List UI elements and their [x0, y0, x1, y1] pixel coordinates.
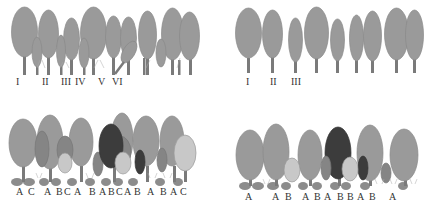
species-label: A [272, 192, 279, 202]
even-aged-stand-illustration [217, 0, 434, 106]
species-label: A [357, 192, 364, 202]
species-label: A [302, 192, 309, 202]
species-label: C [180, 187, 187, 197]
layer-label-iii: III [61, 77, 71, 87]
species-label: B [108, 187, 115, 197]
species-label: B [314, 192, 321, 202]
species-label: A [44, 187, 51, 197]
species-label: C [64, 187, 71, 197]
layer-label-ii: II [270, 77, 277, 87]
panel-uneven-aged-stand [0, 0, 217, 106]
species-label: B [285, 192, 292, 202]
species-label: A [124, 187, 131, 197]
species-label: C [28, 187, 35, 197]
species-label: B [369, 192, 376, 202]
species-label: B [89, 187, 96, 197]
species-label: A [324, 192, 331, 202]
species-label: A [147, 187, 154, 197]
species-label: A [16, 187, 23, 197]
species-label: A [389, 192, 396, 202]
species-label: A [74, 187, 81, 197]
species-label: B [134, 187, 141, 197]
layer-label-vi: VI [112, 77, 123, 87]
layer-label-i: I [16, 77, 19, 87]
panel-even-aged-stand [217, 0, 434, 106]
species-label: A [170, 187, 177, 197]
layer-label-iv: IV [75, 77, 86, 87]
species-label: C [116, 187, 123, 197]
species-label: A [245, 192, 252, 202]
species-label: B [337, 192, 344, 202]
species-label: B [56, 187, 63, 197]
layer-label-v: V [98, 77, 105, 87]
uneven-aged-stand-illustration [0, 0, 217, 106]
species-label: B [347, 192, 354, 202]
layer-label-ii: II [42, 77, 49, 87]
species-label: B [160, 187, 167, 197]
species-label: A [99, 187, 106, 197]
layer-label-iii: III [291, 77, 301, 87]
layer-label-i: I [246, 77, 249, 87]
